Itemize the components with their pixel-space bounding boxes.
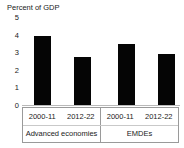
group-label-row: Advanced economies EMDEs [23,126,178,143]
bar-emde-2012-22 [158,54,175,105]
period-label-row: 2000-11 2012-22 2000-11 2012-22 [23,108,178,126]
period-label-ae-2012-22: 2012-22 [62,108,102,125]
y-axis-tick-0: 0 [15,102,19,110]
group-label-emdes: EMDEs [101,126,178,143]
bar-ae-2000-11 [34,36,51,105]
chart-title: Percent of GDP [7,3,60,12]
bar-emde-2000-11 [118,44,135,105]
period-label-ae-2000-11: 2000-11 [23,108,62,125]
x-axis-baseline [22,105,180,106]
period-label-emde-2000-11: 2000-11 [101,108,140,125]
category-label-table: 2000-11 2012-22 2000-11 2012-22 Advanced… [22,107,179,143]
y-axis-tick-4: 4 [15,32,19,40]
bars-layer [22,18,180,106]
y-axis-tick-5: 5 [15,14,19,22]
bar-ae-2012-22 [74,57,91,105]
period-label-emde-2012-22: 2012-22 [140,108,179,125]
y-axis-tick-2: 2 [15,67,19,75]
group-label-advanced-economies: Advanced economies [23,126,101,143]
y-axis-tick-3: 3 [15,49,19,57]
chart-figure: Percent of GDP 5 4 3 2 1 0 2000-11 2012-… [0,0,184,148]
y-axis-tick-1: 1 [15,84,19,92]
plot-area: 5 4 3 2 1 0 [22,18,180,106]
